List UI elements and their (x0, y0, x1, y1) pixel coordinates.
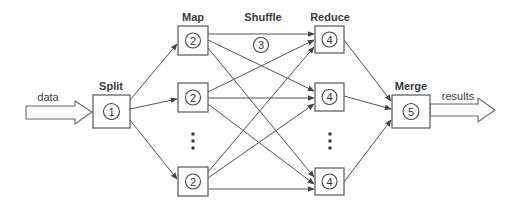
reduce-to-merge-edges (344, 40, 391, 182)
reduce-ellipsis (329, 133, 332, 150)
reduce-node-number: 4 (326, 176, 332, 188)
stage-label-map: Map (182, 11, 204, 23)
reduce-node-number: 4 (326, 34, 332, 46)
map-node: 2 (178, 83, 208, 112)
merge-node-number: 5 (408, 106, 414, 118)
map-node-number: 2 (190, 176, 196, 188)
stage-label-reduce: Reduce (310, 11, 350, 23)
map-node-number: 2 (190, 92, 196, 104)
map-node-number: 2 (190, 35, 196, 47)
stage-label-merge: Merge (395, 80, 427, 92)
reduce-node: 4 (315, 83, 344, 111)
split-node: 1 (93, 95, 130, 128)
mapreduce-diagram: Split Map Shuffle Reduce Merge data resu… (0, 0, 518, 207)
stage-label-split: Split (99, 80, 123, 92)
stage-label-shuffle: Shuffle (244, 11, 281, 23)
reduce-node-number: 4 (326, 91, 332, 103)
merge-node: 5 (392, 95, 430, 128)
shuffle-edges (208, 34, 314, 189)
split-to-map-edges (130, 44, 177, 179)
reduce-node: 4 (315, 26, 344, 53)
reduce-node: 4 (315, 168, 344, 195)
map-ellipsis (192, 133, 195, 150)
input-data-arrow (26, 101, 92, 124)
input-label: data (37, 91, 59, 103)
shuffle-marker-number: 3 (258, 39, 264, 51)
output-label: results (442, 90, 475, 102)
map-node: 2 (178, 167, 208, 196)
shuffle-marker: 3 (254, 38, 269, 53)
split-node-number: 1 (108, 106, 114, 118)
map-node: 2 (178, 26, 208, 55)
